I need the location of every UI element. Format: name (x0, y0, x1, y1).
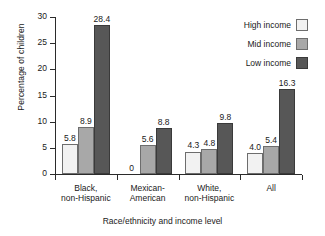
legend-label: High income (244, 20, 291, 30)
bar (217, 123, 233, 174)
legend-item: High income (196, 17, 308, 33)
y-axis-line (55, 17, 56, 175)
bar-value-label: 8.8 (152, 118, 176, 127)
bar-value-label: 16.3 (275, 79, 299, 88)
y-axis-title: Percentage of children (16, 2, 26, 132)
y-tick-label: 15 (38, 90, 47, 100)
y-tick-label: 0 (42, 168, 47, 178)
x-tick (55, 175, 56, 180)
bar (140, 145, 156, 174)
x-tick (117, 175, 118, 180)
x-tick (302, 175, 303, 180)
y-tick-label: 30 (38, 11, 47, 21)
y-tick: 25 (50, 43, 55, 44)
legend-label: Mid income (248, 39, 291, 49)
bar (279, 89, 295, 174)
bar-value-label: 9.8 (213, 113, 237, 122)
y-tick-label: 25 (38, 37, 47, 47)
y-tick-label: 20 (38, 63, 47, 73)
bar (78, 127, 94, 174)
y-tick: 30 (50, 17, 55, 18)
x-tick (240, 175, 241, 180)
bar (263, 146, 279, 174)
legend-swatch (296, 38, 308, 50)
legend-swatch (296, 57, 308, 69)
bar (247, 153, 263, 174)
legend-item: Mid income (196, 36, 308, 52)
bar-chart: Percentage of children 051015202530 5.88… (0, 0, 325, 236)
y-tick-label: 5 (42, 142, 47, 152)
y-tick: 15 (50, 96, 55, 97)
bar (201, 149, 217, 174)
y-tick-label: 10 (38, 116, 47, 126)
x-category-label: All (231, 183, 311, 193)
bar-value-label: 28.4 (90, 15, 114, 24)
x-axis-title: Race/ethnicity and income level (0, 216, 325, 226)
x-tick (179, 175, 180, 180)
y-tick: 20 (50, 69, 55, 70)
y-tick: 5 (50, 148, 55, 149)
bar (62, 144, 78, 174)
bar (185, 152, 201, 175)
legend-swatch (296, 19, 308, 31)
legend-label: Low income (246, 58, 291, 68)
bar (94, 25, 110, 174)
legend-item: Low income (196, 55, 308, 71)
y-tick: 10 (50, 122, 55, 123)
bar (156, 128, 172, 174)
chart-legend: High incomeMid incomeLow income (196, 17, 308, 74)
